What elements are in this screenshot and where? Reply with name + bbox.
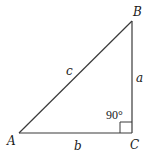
side-label-a: a bbox=[136, 71, 143, 85]
side-label-c: c bbox=[66, 64, 73, 78]
vertex-label-b: B bbox=[132, 5, 142, 19]
right-angle-label: 90° bbox=[106, 108, 123, 122]
vertex-label-a: A bbox=[6, 134, 16, 148]
right-angle-marker bbox=[120, 122, 132, 133]
side-label-b: b bbox=[74, 139, 82, 153]
right-triangle-diagram: B A C c a b 90° bbox=[0, 0, 147, 160]
vertex-label-c: C bbox=[130, 138, 139, 152]
